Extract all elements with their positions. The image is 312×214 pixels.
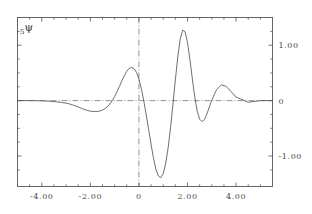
data-series-0	[18, 30, 273, 177]
y-axis-tick-label-2: 1.00	[279, 41, 299, 50]
curve-label-symbol: ψ	[24, 21, 33, 34]
x-axis-tick-label-2: 0	[136, 192, 142, 201]
y-axis-tick-label-0: -1.00	[279, 152, 303, 161]
curve-label: 5ψ	[20, 22, 33, 36]
y-axis-tick-label-1: 0	[279, 96, 285, 105]
x-axis-tick-label-1: -2.00	[79, 192, 103, 201]
wavelet-plot-figure: 5ψ -4.00-2.0002.004.00-1.0001.00	[0, 0, 312, 214]
x-axis-tick-label-3: 2.00	[177, 192, 197, 201]
x-axis-tick-label-0: -4.00	[30, 192, 54, 201]
x-axis-tick-label-4: 4.00	[226, 192, 246, 201]
plot-canvas	[0, 0, 312, 214]
